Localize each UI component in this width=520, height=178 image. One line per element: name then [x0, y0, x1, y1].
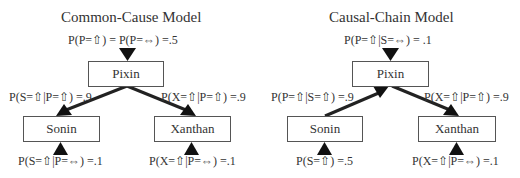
arrowhead-icon — [373, 86, 389, 98]
base-rate-label-xanthan: P(X=⇧|P=⇔) =.1 — [412, 154, 499, 169]
edges-layer — [0, 0, 520, 178]
diagram-title: Common-Cause Model — [61, 9, 201, 26]
node-pixin: Pixin — [352, 61, 429, 87]
edge-label-xanthan: P(X=⇧|P=⇧) =.9 — [161, 90, 246, 105]
diagram-title: Causal-Chain Model — [329, 9, 454, 26]
node-sonin: Sonin — [23, 116, 100, 142]
prior-label: P(P=⇧) = P(P=⇔) =.5 — [68, 33, 178, 48]
edge-label-xanthan: P(X=⇧|P=⇧) =.9 — [424, 90, 509, 105]
node-pixin: Pixin — [88, 61, 164, 87]
node-sonin: Sonin — [287, 116, 363, 142]
base-rate-label-xanthan: P(X=⇧|P=⇔) =.1 — [149, 154, 236, 169]
edge-label-sonin: P(P=⇧|S=⇧) =.9 — [271, 90, 354, 105]
node-xanthan: Xanthan — [418, 116, 496, 142]
base-rate-label-sonin: P(S=⇧|P=⇔) =.1 — [18, 154, 103, 169]
arrowhead-down-icon — [119, 48, 136, 61]
base-rate-label-sonin: P(S=⇧) =.5 — [296, 154, 353, 169]
node-xanthan: Xanthan — [154, 116, 231, 142]
prior-label: P(P=⇧|S=⇔) = .1 — [344, 33, 432, 48]
edge-label-sonin: P(S=⇧|P=⇧) =.9 — [9, 90, 92, 105]
arrowhead-icon — [443, 104, 459, 116]
arrowhead-down-icon — [382, 48, 399, 61]
